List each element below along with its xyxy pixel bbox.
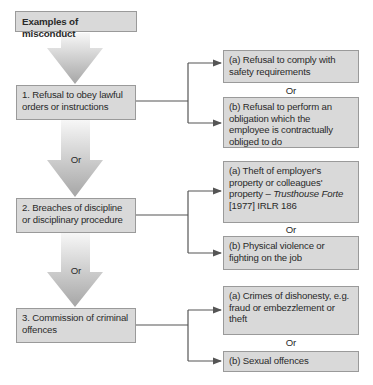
option-text: (a) Crimes of dishonesty, e.g. fraud or … — [229, 290, 349, 324]
misconduct-category-3: 3. Commission of criminal offences — [16, 308, 136, 343]
or-separator-3: Or — [223, 337, 359, 348]
misconduct-category-2: 2. Breaches of discipline or disciplinar… — [16, 198, 136, 233]
option-text: (a) Refusal to comply with safety requir… — [229, 54, 335, 77]
arrow-or-label-3: Or — [61, 265, 91, 276]
header-title: Examples of misconduct — [22, 16, 78, 39]
category-1-option-b: (b) Refusal to perform an obligation whi… — [223, 97, 359, 148]
category-2-option-a: (a) Theft of employer's property or coll… — [223, 161, 359, 223]
case-name: Trusthouse Forte — [273, 188, 343, 199]
or-separator-1: Or — [223, 85, 359, 96]
arrow-or-label-2: Or — [61, 154, 91, 165]
case-citation: [1977] IRLR 186 — [229, 200, 297, 211]
option-text: (b) Sexual offences — [229, 355, 309, 366]
option-text: (b) Refusal to perform an obligation whi… — [229, 101, 333, 147]
category-1-option-a: (a) Refusal to comply with safety requir… — [223, 50, 359, 83]
category-1-label: 1. Refusal to obey lawful orders or inst… — [22, 89, 123, 112]
category-2-option-b: (b) Physical violence or fighting on the… — [223, 236, 359, 270]
category-2-label: 2. Breaches of discipline or disciplinar… — [22, 202, 123, 225]
down-arrow-1 — [47, 33, 103, 84]
header-box: Examples of misconduct — [15, 11, 137, 32]
category-3-option-a: (a) Crimes of dishonesty, e.g. fraud or … — [223, 286, 359, 335]
misconduct-category-1: 1. Refusal to obey lawful orders or inst… — [16, 85, 136, 120]
or-separator-2: Or — [223, 224, 359, 235]
category-3-option-b: (b) Sexual offences — [223, 351, 359, 372]
option-text: (b) Physical violence or fighting on the… — [229, 240, 325, 263]
category-3-label: 3. Commission of criminal offences — [22, 312, 128, 335]
